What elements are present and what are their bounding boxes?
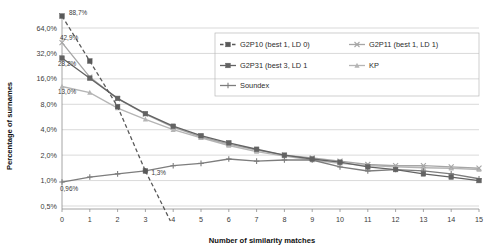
series-g2p11-best-1-ld-1 [60,40,482,171]
data-point-marker [143,111,148,116]
legend-item-g2p31-best-3-ld-1[interactable]: G2P31 (best 3, LD 1 [220,61,307,70]
data-point-marker [226,156,232,162]
y-axis-tick-label: 16,0% [37,74,58,83]
data-point-label: 1,3% [151,169,166,176]
data-point-label: 0,96% [60,185,78,192]
data-point-marker [88,59,93,64]
chart-legend[interactable]: G2P10 (best 1, LD 0)G2P11 (best 1, LD 1)… [215,33,479,96]
y-axis-tick-label: 2,0% [41,151,58,160]
data-point-marker [199,133,204,138]
x-axis-tick-label: 2 [116,215,120,224]
data-point-label: 42,9% [60,34,78,41]
x-axis-tick-label: 6 [227,215,231,224]
y-axis-tick-label: 32,0% [37,49,58,58]
data-point-marker [227,140,232,145]
data-point-marker [254,147,259,152]
data-point-marker [115,171,121,177]
y-axis-tick-label: 8,0% [41,100,58,109]
series-kp [59,84,481,172]
x-axis-tick-label: 4 [171,215,175,224]
x-axis-title: Number of similarity matches [209,236,315,245]
x-axis-tick-label: 9 [310,215,314,224]
x-axis-tick-label: 10 [336,215,344,224]
legend-item-kp[interactable]: KP [349,61,379,70]
legend-label: KP [369,61,379,70]
legend-item-g2p10-best-1-ld-0[interactable]: G2P10 (best 1, LD 0) [220,40,310,49]
x-axis-tick-label: 15 [475,215,483,224]
similarity-matches-line-chart: 64,0%32,0%16,0%8,0%4,0%2,0%1,0%0,5% 0123… [0,0,486,250]
data-point-marker [59,179,65,185]
legend-swatch-marker [226,42,231,47]
data-point-marker [421,172,426,177]
x-axis-tick-label: 14 [447,215,455,224]
legend-item-g2p11-best-1-ld-1[interactable]: G2P11 (best 1, LD 1) [349,40,438,49]
data-point-marker [393,167,398,172]
legend-swatch-marker [226,63,231,68]
gridlines-group [62,28,479,206]
series-line [62,86,479,169]
x-axis-tick-label: 5 [199,215,203,224]
x-axis-tick-label: 0 [60,215,64,224]
data-point-marker [282,153,287,158]
data-point-marker [143,169,148,174]
data-point-marker [198,161,204,167]
data-point-marker [449,175,454,180]
data-point-marker [87,174,93,180]
x-axis-tick-label: 12 [392,215,400,224]
data-point-marker [88,76,93,81]
series-line [62,159,479,182]
data-point-label: 28,2% [58,60,76,67]
data-point-marker [366,165,371,170]
chart-container: 64,0%32,0%16,0%8,0%4,0%2,0%1,0%0,5% 0123… [0,0,486,250]
data-point-marker [254,158,260,164]
series-line-extension [145,171,170,221]
data-point-marker [171,124,176,129]
legend-label: G2P11 (best 1, LD 1) [369,40,438,49]
y-axis-tick-label: 64,0% [37,24,58,33]
y-axis-title: Percentage of surnames [5,82,14,170]
data-point-marker [170,163,176,169]
x-axis-tick-label: 11 [364,215,371,224]
legend-swatch-marker [225,83,231,89]
legend-label: G2P31 (best 3, LD 1 [240,61,307,70]
x-axis-tick-label: 13 [419,215,427,224]
data-point-labels: 88,7%42,9%28,2%13,0%0,96%1,3% [58,9,166,192]
y-axis-tick-labels: 64,0%32,0%16,0%8,0%4,0%2,0%1,0%0,5% [37,24,58,211]
y-axis-tick-label: 0,5% [41,202,58,211]
y-axis-tick-label: 1,0% [41,176,58,185]
data-point-marker [115,104,120,109]
legend-item-soundex[interactable]: Soundex [220,81,269,90]
y-axis-tick-label: 4,0% [41,125,58,134]
data-point-marker [310,157,315,162]
x-axis-tick-label: 7 [255,215,259,224]
x-axis-tick-labels: 0123456789101112131415 [60,215,483,224]
legend-label: G2P10 (best 1, LD 0) [240,40,310,49]
data-point-marker [477,178,482,183]
series-line [62,58,479,181]
data-point-marker [115,96,120,101]
data-point-marker [338,160,343,165]
data-point-marker [60,14,65,19]
x-axis-tick-label: 3 [143,215,147,224]
legend-label: Soundex [240,81,269,90]
x-axis-tick-label: 1 [88,215,92,224]
data-point-label: 88,7% [69,9,87,16]
data-point-label: 13,0% [58,88,76,95]
x-axis-tick-label: 8 [282,215,286,224]
